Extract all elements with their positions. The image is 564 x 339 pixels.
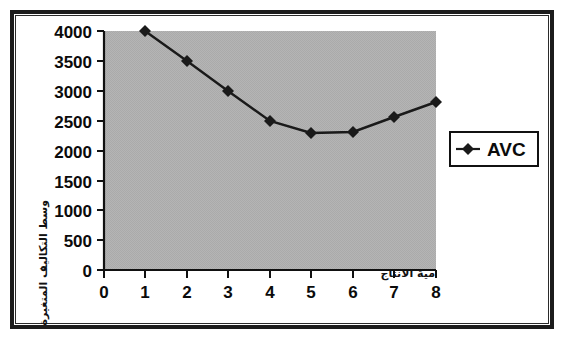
y-tick-label-1000: 1000: [54, 202, 92, 221]
y-tick-label-500: 500: [64, 232, 92, 251]
x-tick-label-8: 8: [431, 283, 440, 302]
legend-label-avc: AVC: [487, 139, 526, 160]
x-tick-label-7: 7: [389, 283, 398, 302]
y-axis-title: وسط التكاليف المتغيرة: [37, 200, 50, 326]
x-tick-label-4: 4: [265, 283, 275, 302]
x-tick-label-6: 6: [348, 283, 357, 302]
x-tick-label-2: 2: [182, 283, 191, 302]
x-tick-label-1: 1: [140, 283, 149, 302]
y-tick-label-0: 0: [83, 262, 92, 281]
chart-canvas: 4000 3500 3000 2500 2000 1500 1000 500 0…: [0, 0, 564, 339]
x-axis-title: مية الانتاج: [381, 267, 435, 281]
y-tick-label-4000: 4000: [54, 23, 92, 42]
y-tick-label-1500: 1500: [54, 173, 92, 192]
plot-area-background: [104, 31, 436, 270]
x-tick-label-5: 5: [306, 283, 315, 302]
chart-legend[interactable]: AVC: [450, 132, 538, 166]
y-tick-label-2000: 2000: [54, 143, 92, 162]
x-tick-label-0: 0: [99, 283, 108, 302]
chart-figure: 4000 3500 3000 2500 2000 1500 1000 500 0…: [0, 0, 564, 339]
y-tick-label-3500: 3500: [54, 53, 92, 72]
x-tick-label-3: 3: [223, 283, 232, 302]
y-tick-label-2500: 2500: [54, 113, 92, 132]
y-tick-label-3000: 3000: [54, 83, 92, 102]
